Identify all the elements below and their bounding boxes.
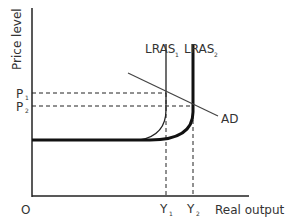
origin-label: O: [21, 203, 30, 217]
lras1-label: LRAS: [145, 42, 175, 56]
lras-ad-diagram: Price level Real output O P 1 P 2 Y 1 Y …: [0, 0, 298, 220]
lras2-label: LRAS: [184, 42, 214, 56]
lras2-sub: 2: [214, 51, 218, 58]
ad-curve: [128, 73, 218, 116]
ad-label: AD: [221, 112, 238, 126]
lras1-sub: 1: [175, 51, 179, 58]
p2-label: P: [16, 100, 23, 114]
y1-sub: 1: [169, 210, 173, 217]
p1-sub: 1: [25, 94, 29, 101]
y1-label: Y: [159, 202, 168, 216]
lras1-curve: [140, 44, 166, 140]
y2-label: Y: [186, 202, 195, 216]
x-axis-label: Real output: [215, 203, 285, 217]
y-axis-label: Price level: [10, 8, 24, 70]
p1-label: P: [16, 87, 23, 101]
y2-sub: 2: [196, 210, 200, 217]
p2-sub: 2: [25, 107, 29, 114]
